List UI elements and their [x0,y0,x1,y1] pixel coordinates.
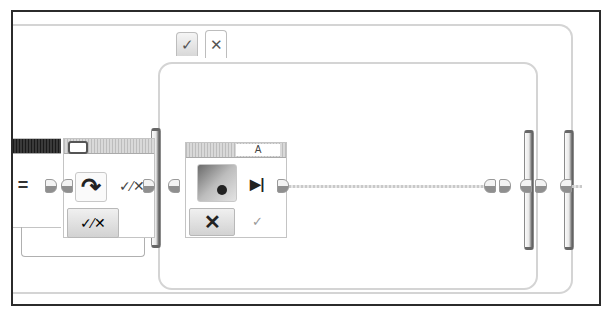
stop-step-icon[interactable]: ▶| [245,172,269,196]
compare-block-header [11,139,61,154]
sequence-wire [289,185,487,188]
switch-tab-true[interactable]: ✓ [176,32,198,56]
logic-mode-selector[interactable]: ↷ [75,172,107,202]
cross-icon: ✕ [204,210,221,234]
loop-arrow-icon: ↷ [81,173,101,201]
cross-icon: ✕ [210,36,223,54]
switch-exit-port-2[interactable] [499,179,511,193]
motor-param-input[interactable]: ✕ [189,208,235,236]
equals-operator: = [14,175,32,195]
logic-param-input[interactable]: ✓⁄✕ [67,208,119,238]
loop-port-2[interactable] [535,179,547,193]
motor-hub-icon [217,185,227,195]
program-canvas: ✓ ✕ = ↷ ✓⁄✕ ✓⁄✕ A ▶| ✕ ✓ [11,10,601,306]
loop-exit-wire [572,185,582,188]
switch-tab-false[interactable]: ✕ [205,30,227,58]
logic-output-port[interactable] [143,179,155,193]
loop-entry-port[interactable] [520,179,532,193]
motor-icon[interactable] [197,164,237,202]
compare-output-port[interactable] [45,179,57,193]
logic-input-port[interactable] [61,179,73,193]
check-icon: ✓ [181,36,194,54]
motor-output-symbol: ✓ [245,210,269,232]
motor-port-label[interactable]: A [236,144,280,156]
motor-sequence-in-port[interactable] [168,179,180,193]
block-mode-chip-icon [68,141,88,154]
true-false-icon: ✓⁄✕ [80,215,106,231]
motor-sequence-out-port[interactable] [277,179,289,193]
switch-exit-port-1[interactable] [484,179,496,193]
loop-exit-port[interactable] [560,179,572,193]
